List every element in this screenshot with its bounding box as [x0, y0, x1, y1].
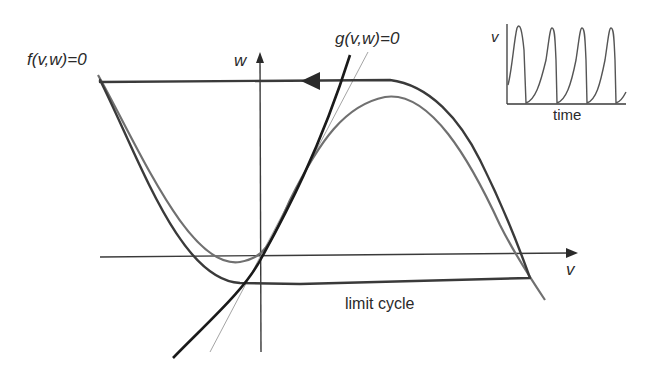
w-axis — [260, 60, 261, 352]
v-axis — [100, 253, 570, 257]
f-nullcline-curve — [98, 75, 545, 300]
limit-cycle-direction-arrow-icon — [301, 72, 320, 90]
limit-cycle-label: limit cycle — [345, 295, 414, 312]
v-axis-arrow-icon — [566, 248, 578, 258]
w-axis-arrow-icon — [256, 52, 264, 63]
inset-time-course: v time — [491, 24, 626, 123]
inset-v-label: v — [491, 28, 500, 45]
axes — [100, 52, 578, 352]
v-axis-label: v — [566, 260, 576, 279]
inset-voltage-trace — [508, 26, 626, 103]
g-nullcline-label: g(v,w)=0 — [335, 29, 400, 48]
phase-plane-diagram: f(v,w)=0 g(v,w)=0 w v limit cycle v time — [0, 0, 650, 372]
f-nullcline-label: f(v,w)=0 — [27, 50, 87, 69]
w-axis-label: w — [234, 51, 248, 70]
inset-time-label: time — [553, 106, 581, 123]
